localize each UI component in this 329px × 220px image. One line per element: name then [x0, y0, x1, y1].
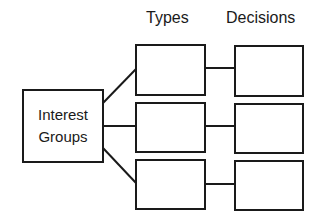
interest-groups-box: Interest Groups	[22, 89, 104, 163]
connector-ig-to-types-3	[103, 148, 136, 183]
decisions-box-3	[234, 160, 304, 211]
types-box-1	[135, 44, 206, 96]
interest-groups-line-2: Groups	[24, 126, 102, 148]
types-header: Types	[146, 9, 189, 27]
decisions-box-2	[234, 103, 304, 154]
connector-ig-to-types-1	[103, 69, 136, 103]
decisions-box-1	[234, 45, 304, 97]
types-box-2	[135, 102, 206, 153]
types-box-3	[135, 159, 206, 210]
interest-groups-label: Interest Groups	[24, 104, 102, 148]
interest-groups-line-1: Interest	[24, 104, 102, 126]
decisions-header: Decisions	[226, 9, 295, 27]
